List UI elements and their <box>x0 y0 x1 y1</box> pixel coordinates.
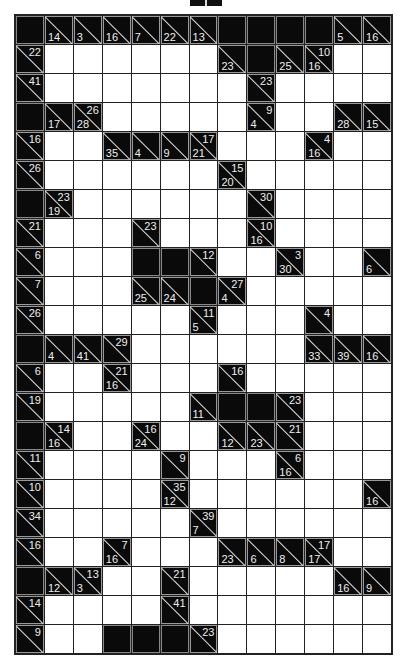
entry-cell[interactable] <box>276 625 304 653</box>
entry-cell[interactable] <box>363 277 391 305</box>
entry-cell[interactable] <box>334 219 362 247</box>
entry-cell[interactable] <box>334 393 362 421</box>
entry-cell[interactable] <box>103 306 131 334</box>
entry-cell[interactable] <box>276 335 304 363</box>
entry-cell[interactable] <box>334 132 362 160</box>
entry-cell[interactable] <box>247 132 275 160</box>
entry-cell[interactable] <box>334 306 362 334</box>
entry-cell[interactable] <box>103 480 131 508</box>
entry-cell[interactable] <box>276 74 304 102</box>
entry-cell[interactable] <box>218 190 246 218</box>
entry-cell[interactable] <box>103 103 131 131</box>
entry-cell[interactable] <box>74 625 102 653</box>
entry-cell[interactable] <box>276 509 304 537</box>
entry-cell[interactable] <box>74 480 102 508</box>
entry-cell[interactable] <box>305 480 333 508</box>
entry-cell[interactable] <box>161 219 189 247</box>
entry-cell[interactable] <box>161 190 189 218</box>
entry-cell[interactable] <box>45 480 73 508</box>
entry-cell[interactable] <box>45 219 73 247</box>
entry-cell[interactable] <box>103 393 131 421</box>
entry-cell[interactable] <box>363 538 391 566</box>
entry-cell[interactable] <box>334 161 362 189</box>
entry-cell[interactable] <box>247 306 275 334</box>
entry-cell[interactable] <box>247 364 275 392</box>
entry-cell[interactable] <box>305 625 333 653</box>
entry-cell[interactable] <box>305 393 333 421</box>
entry-cell[interactable] <box>190 103 218 131</box>
entry-cell[interactable] <box>45 306 73 334</box>
entry-cell[interactable] <box>74 596 102 624</box>
entry-cell[interactable] <box>334 74 362 102</box>
entry-cell[interactable] <box>45 161 73 189</box>
entry-cell[interactable] <box>103 248 131 276</box>
entry-cell[interactable] <box>334 538 362 566</box>
entry-cell[interactable] <box>276 103 304 131</box>
entry-cell[interactable] <box>103 509 131 537</box>
entry-cell[interactable] <box>363 451 391 479</box>
entry-cell[interactable] <box>218 306 246 334</box>
entry-cell[interactable] <box>305 74 333 102</box>
entry-cell[interactable] <box>276 161 304 189</box>
entry-cell[interactable] <box>334 422 362 450</box>
entry-cell[interactable] <box>132 509 160 537</box>
entry-cell[interactable] <box>45 509 73 537</box>
entry-cell[interactable] <box>190 45 218 73</box>
entry-cell[interactable] <box>74 248 102 276</box>
entry-cell[interactable] <box>363 132 391 160</box>
entry-cell[interactable] <box>161 74 189 102</box>
entry-cell[interactable] <box>218 219 246 247</box>
entry-cell[interactable] <box>190 74 218 102</box>
entry-cell[interactable] <box>103 451 131 479</box>
entry-cell[interactable] <box>334 480 362 508</box>
entry-cell[interactable] <box>247 509 275 537</box>
entry-cell[interactable] <box>247 480 275 508</box>
entry-cell[interactable] <box>74 190 102 218</box>
entry-cell[interactable] <box>45 45 73 73</box>
entry-cell[interactable] <box>190 190 218 218</box>
entry-cell[interactable] <box>190 538 218 566</box>
entry-cell[interactable] <box>45 596 73 624</box>
entry-cell[interactable] <box>305 190 333 218</box>
entry-cell[interactable] <box>132 451 160 479</box>
entry-cell[interactable] <box>74 132 102 160</box>
entry-cell[interactable] <box>190 567 218 595</box>
entry-cell[interactable] <box>363 509 391 537</box>
entry-cell[interactable] <box>247 451 275 479</box>
entry-cell[interactable] <box>218 248 246 276</box>
entry-cell[interactable] <box>305 219 333 247</box>
entry-cell[interactable] <box>132 393 160 421</box>
entry-cell[interactable] <box>363 190 391 218</box>
entry-cell[interactable] <box>45 625 73 653</box>
entry-cell[interactable] <box>363 422 391 450</box>
entry-cell[interactable] <box>161 422 189 450</box>
entry-cell[interactable] <box>45 74 73 102</box>
entry-cell[interactable] <box>218 509 246 537</box>
entry-cell[interactable] <box>103 219 131 247</box>
entry-cell[interactable] <box>276 219 304 247</box>
entry-cell[interactable] <box>218 480 246 508</box>
entry-cell[interactable] <box>45 364 73 392</box>
entry-cell[interactable] <box>363 74 391 102</box>
entry-cell[interactable] <box>363 219 391 247</box>
entry-cell[interactable] <box>218 132 246 160</box>
entry-cell[interactable] <box>276 132 304 160</box>
entry-cell[interactable] <box>45 132 73 160</box>
entry-cell[interactable] <box>247 335 275 363</box>
entry-cell[interactable] <box>363 393 391 421</box>
entry-cell[interactable] <box>276 306 304 334</box>
entry-cell[interactable] <box>305 451 333 479</box>
entry-cell[interactable] <box>45 538 73 566</box>
entry-cell[interactable] <box>103 596 131 624</box>
entry-cell[interactable] <box>74 451 102 479</box>
entry-cell[interactable] <box>334 625 362 653</box>
entry-cell[interactable] <box>45 393 73 421</box>
entry-cell[interactable] <box>74 393 102 421</box>
entry-cell[interactable] <box>276 596 304 624</box>
entry-cell[interactable] <box>132 335 160 363</box>
entry-cell[interactable] <box>190 480 218 508</box>
entry-cell[interactable] <box>74 161 102 189</box>
entry-cell[interactable] <box>218 103 246 131</box>
entry-cell[interactable] <box>161 335 189 363</box>
entry-cell[interactable] <box>103 45 131 73</box>
